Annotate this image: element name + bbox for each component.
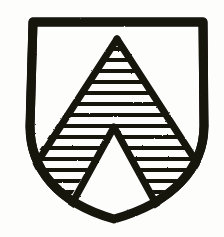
shield-drawing	[0, 0, 224, 237]
heraldic-shield-figure: Heraldic shield with barry pile and chev…	[0, 0, 224, 237]
